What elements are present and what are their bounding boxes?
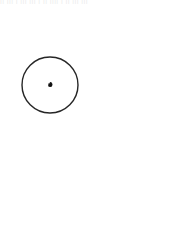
spiral-figure-root: || ||| | ||| ||| | || |||| | || ||| ||| (0, 0, 175, 244)
spiral-curve (49, 83, 51, 86)
spiral-curve-layer (49, 83, 51, 86)
figure-background (0, 0, 175, 244)
golden-spiral-diagram (0, 0, 175, 244)
